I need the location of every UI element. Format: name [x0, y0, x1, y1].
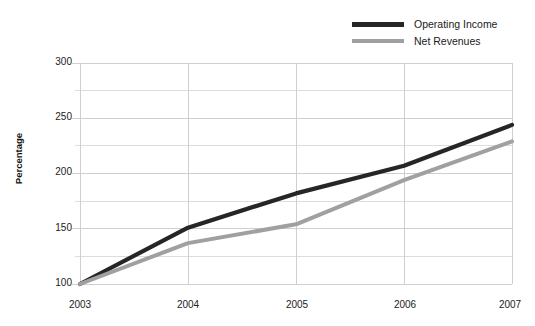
x-tick-label: 2007 — [480, 300, 535, 310]
line-chart: Operating Income Net Revenues Percentage… — [0, 0, 535, 326]
legend-swatch-net-revenues — [352, 39, 404, 43]
y-axis-tick-labels: 300 250 200 150 100 — [40, 0, 72, 326]
x-tick-label: 2005 — [267, 300, 327, 310]
y-axis-title: Percentage — [13, 123, 24, 195]
y-tick-label: 100 — [42, 278, 72, 288]
chart-legend: Operating Income Net Revenues — [352, 8, 532, 46]
grid-vertical — [80, 63, 512, 284]
grid-minor — [80, 91, 512, 257]
legend-item-net-revenues[interactable]: Net Revenues — [352, 33, 481, 49]
y-tick-label: 150 — [42, 223, 72, 233]
legend-label-net-revenues: Net Revenues — [414, 36, 481, 47]
legend-swatch-operating-income — [352, 22, 404, 27]
series-lines — [80, 125, 512, 284]
x-tick-label: 2006 — [375, 300, 435, 310]
y-tick-label: 200 — [42, 167, 72, 177]
series-line — [80, 141, 512, 284]
x-tick-label: 2004 — [158, 300, 218, 310]
legend-label-operating-income: Operating Income — [414, 19, 497, 30]
y-tick-label: 300 — [42, 57, 72, 67]
x-tick-label: 2003 — [50, 300, 110, 310]
legend-item-operating-income[interactable]: Operating Income — [352, 16, 497, 32]
y-tick-label: 250 — [42, 112, 72, 122]
series-line — [80, 125, 512, 284]
tick-marks — [72, 63, 80, 284]
grid-major — [80, 63, 512, 284]
